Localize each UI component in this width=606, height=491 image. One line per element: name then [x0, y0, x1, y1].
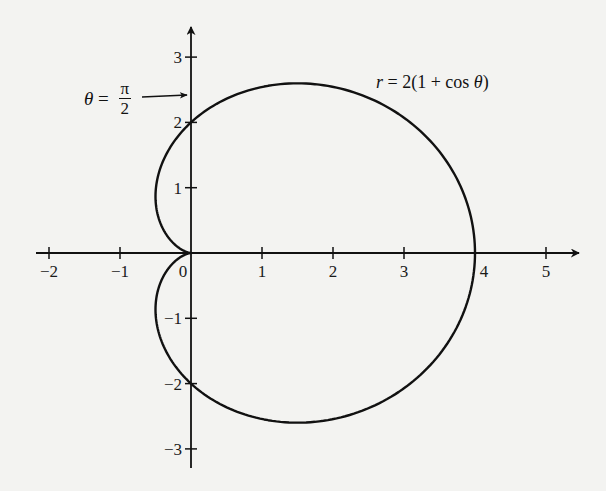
x-tick-label: −1 [111, 262, 129, 281]
equation-r: r [376, 72, 383, 92]
theta-annotation: θ = π 2 [84, 80, 131, 117]
equation-body: = 2(1 + cos [383, 72, 474, 92]
x-tick-label: −2 [40, 262, 58, 281]
equation-close: ) [483, 72, 489, 92]
pi-over-2-fraction: π 2 [119, 80, 132, 117]
x-tick-label: 5 [542, 262, 551, 281]
fraction-denominator: 2 [121, 99, 130, 117]
x-tick-label: 4 [480, 262, 489, 281]
theta-equals: = [93, 88, 113, 110]
x-tick-label: 0 [179, 262, 188, 281]
x-tick-label: 1 [258, 262, 267, 281]
theta-symbol: θ [84, 88, 93, 110]
x-tick-label: 2 [329, 262, 338, 281]
polar-plot: −2−1012345 −3−2−1123 [0, 0, 606, 491]
y-tick-label: 2 [174, 113, 183, 132]
equation-theta: θ [474, 72, 483, 92]
y-tick-label: 1 [174, 179, 183, 198]
y-tick-label: −1 [164, 309, 182, 328]
theta-pi-over-2-arrow [142, 95, 187, 97]
y-tick-label: −3 [164, 440, 182, 459]
y-tick-label: −2 [164, 375, 182, 394]
fraction-numerator: π [119, 80, 132, 99]
y-tick-label: 3 [174, 48, 183, 67]
x-tick-label: 3 [400, 262, 409, 281]
equation-label: r = 2(1 + cos θ) [376, 72, 489, 93]
